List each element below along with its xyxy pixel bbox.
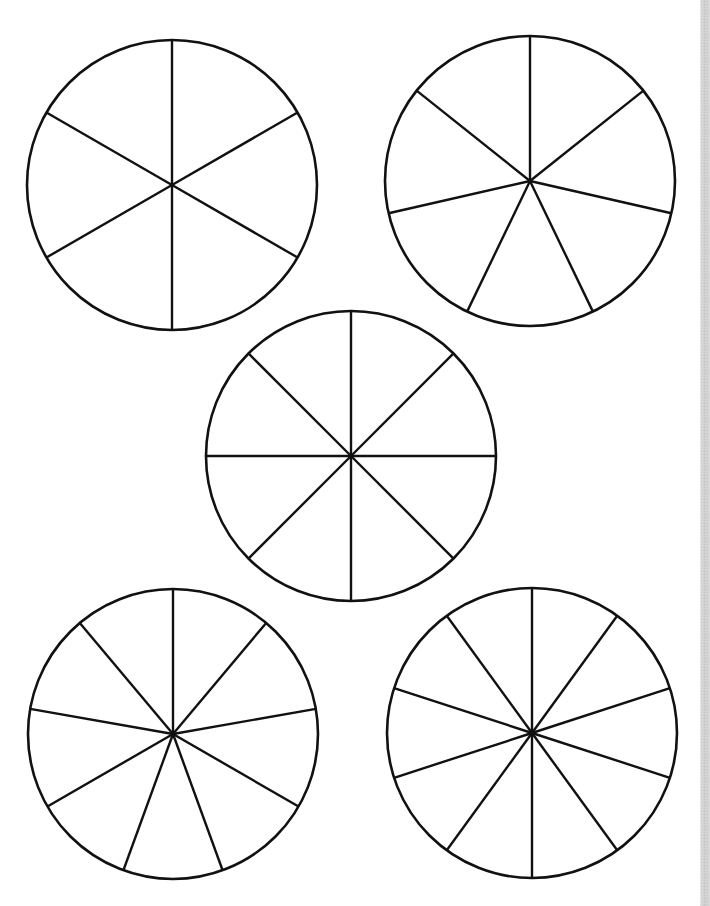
segment-divider xyxy=(173,734,223,870)
segment-divider xyxy=(394,733,532,778)
circle-eighths xyxy=(206,311,496,601)
segment-divider xyxy=(467,181,530,312)
paper-edge-strip xyxy=(700,0,710,906)
segment-divider xyxy=(351,456,454,559)
segment-divider xyxy=(47,734,173,807)
segment-divider xyxy=(530,91,643,181)
segment-divider xyxy=(394,688,532,733)
segment-divider xyxy=(46,185,172,258)
segment-divider xyxy=(351,353,454,456)
segment-divider xyxy=(80,623,173,734)
segment-divider xyxy=(172,185,298,258)
circle-ninths xyxy=(28,589,318,879)
fraction-circles-canvas xyxy=(0,0,710,906)
segment-divider xyxy=(46,113,172,186)
segment-divider xyxy=(173,709,316,734)
segment-divider xyxy=(172,113,298,186)
segment-divider xyxy=(248,456,351,559)
segment-divider xyxy=(532,733,617,850)
segment-divider xyxy=(530,181,671,213)
circle-sixths xyxy=(27,40,317,330)
segment-divider xyxy=(530,181,593,312)
segment-divider xyxy=(123,734,173,870)
segment-divider xyxy=(173,734,299,807)
segment-divider xyxy=(447,733,532,850)
segment-divider xyxy=(417,91,530,181)
segment-divider xyxy=(532,688,670,733)
segment-divider xyxy=(532,616,617,733)
segment-divider xyxy=(389,181,530,213)
circle-sevenths xyxy=(385,36,675,326)
segment-divider xyxy=(173,623,266,734)
segment-divider xyxy=(248,353,351,456)
segment-divider xyxy=(30,709,173,734)
circle-tenths xyxy=(387,588,677,878)
segment-divider xyxy=(447,616,532,733)
segment-divider xyxy=(532,733,670,778)
